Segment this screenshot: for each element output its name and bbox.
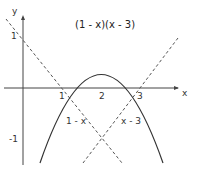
y-axis-label: y: [12, 6, 18, 16]
x-axis-label: x: [182, 88, 188, 98]
y-tick-neg1: -1: [9, 134, 18, 144]
y-tick-1: 1: [11, 31, 17, 41]
x-tick-2: 2: [99, 91, 105, 101]
x-axis-arrow-icon: [174, 86, 179, 90]
curve-label: (1 - x)(x - 3): [75, 19, 135, 30]
y-axis-arrow-icon: [21, 15, 25, 20]
graph-diagram: y x 1 -1 1 2 3 (1 - x)(x - 3) 1 - x x - …: [0, 0, 199, 169]
line-x-minus-3-label: x - 3: [121, 116, 141, 126]
line-x-minus-3: [83, 38, 178, 163]
x-tick-1: 1: [59, 91, 65, 101]
line-1-minus-x-label: 1 - x: [66, 116, 87, 126]
x-tick-3: 3: [137, 91, 143, 101]
